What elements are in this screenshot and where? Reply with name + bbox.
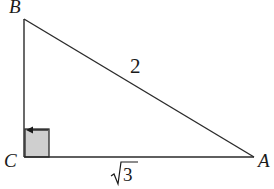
vertex-label-b: B [9, 0, 21, 16]
base-length-radicand: 3 [123, 165, 133, 184]
triangle-diagram [0, 0, 274, 189]
vertex-label-c: C [4, 151, 17, 170]
side-ba-hypotenuse [24, 19, 254, 157]
right-angle-marker [25, 129, 49, 157]
hypotenuse-length-label: 2 [130, 56, 141, 77]
vertex-label-a: A [258, 151, 270, 170]
